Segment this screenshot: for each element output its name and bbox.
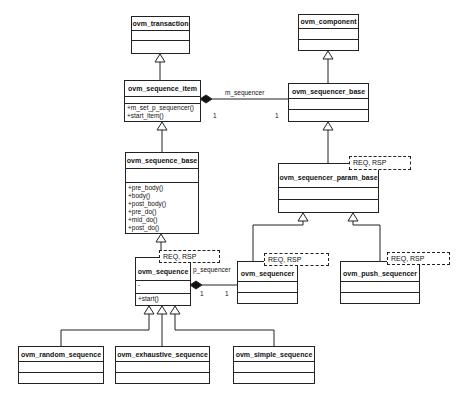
methods-section	[279, 200, 378, 212]
class-ovm-random-sequence: ovm_random_sequence	[18, 346, 104, 384]
attributes-section	[279, 188, 378, 200]
class-ovm-sequence-item: ovm_sequence_item +m_set_p_sequencer() +…	[124, 80, 201, 122]
class-ovm-component: ovm_component	[298, 14, 359, 51]
class-name: ovm_simple_sequence	[234, 347, 314, 362]
attributes-section	[234, 362, 314, 373]
class-name: ovm_push_sequencer	[341, 262, 419, 282]
template-params-ovm-sequencer: REQ, RSP	[264, 253, 329, 266]
attributes-section	[299, 29, 358, 40]
class-ovm-sequence: ovm_sequence - +start()	[135, 257, 191, 306]
attributes-section: -	[136, 281, 190, 294]
method: +post_do()	[128, 224, 198, 232]
attributes-section	[125, 97, 200, 104]
class-ovm-exhaustive-sequence: ovm_exhaustive_sequence	[115, 346, 210, 384]
template-params-ovm-sequencer-param-base: REQ, RSP	[349, 156, 411, 170]
attributes-section	[126, 169, 198, 183]
class-name: ovm_random_sequence	[19, 347, 103, 362]
class-ovm-sequencer-param-base: ovm_sequencer_param_base	[278, 163, 379, 213]
attributes-section	[289, 99, 368, 110]
class-name: ovm_component	[299, 15, 358, 29]
method: +mid_do()	[128, 216, 198, 224]
methods-section	[341, 293, 419, 303]
method: +pre_body()	[128, 184, 198, 192]
methods-section	[299, 40, 358, 50]
attributes-section	[19, 362, 103, 373]
attributes-section	[116, 362, 209, 373]
attributes-section	[132, 31, 189, 41]
method: +pre_do()	[128, 208, 198, 216]
template-params-ovm-sequence: REQ, RSP	[159, 250, 220, 263]
methods-section	[238, 293, 297, 303]
class-ovm-push-sequencer: ovm_push_sequencer	[340, 261, 420, 304]
class-name: ovm_transaction	[132, 17, 189, 31]
m-sequencer-label: m_sequencer	[225, 89, 264, 96]
class-name: ovm_sequencer_base	[289, 84, 368, 99]
methods-section: +m_set_p_sequencer() +start_item()	[125, 104, 200, 121]
method: +body()	[128, 192, 198, 200]
class-ovm-simple-sequence: ovm_simple_sequence	[233, 346, 315, 384]
methods-section	[116, 373, 209, 383]
connector-layer	[0, 0, 465, 403]
class-ovm-transaction: ovm_transaction	[131, 16, 190, 54]
method: +m_set_p_sequencer()	[127, 104, 200, 112]
p-sequencer-mult-to: 1	[225, 290, 229, 297]
class-name: ovm_sequence_base	[126, 153, 198, 169]
m-sequencer-mult-to: 1	[275, 112, 279, 119]
methods-section: +start()	[136, 294, 190, 304]
template-params-ovm-push-sequencer: REQ, RSP	[387, 252, 450, 265]
methods-section	[289, 110, 368, 121]
methods-section	[19, 373, 103, 383]
method: +post_body()	[128, 200, 198, 208]
method: +start()	[138, 295, 190, 303]
attributes-section	[341, 282, 419, 293]
method: +start_item()	[127, 112, 200, 120]
class-name: ovm_exhaustive_sequence	[116, 347, 209, 362]
methods-section	[132, 41, 189, 53]
class-ovm-sequence-base: ovm_sequence_base +pre_body() +body() +p…	[125, 152, 199, 234]
class-name: ovm_sequence_item	[125, 81, 200, 97]
attributes-section	[238, 282, 297, 293]
p-sequencer-mult-from: 1	[200, 290, 204, 297]
class-ovm-sequencer-base: ovm_sequencer_base	[288, 83, 369, 122]
p-sequencer-label: p_sequencer	[193, 266, 231, 273]
class-ovm-sequencer: ovm_sequencer	[237, 261, 298, 304]
m-sequencer-mult-from: 1	[213, 112, 217, 119]
methods-section	[234, 373, 314, 383]
methods-section: +pre_body() +body() +post_body() +pre_do…	[126, 183, 198, 233]
